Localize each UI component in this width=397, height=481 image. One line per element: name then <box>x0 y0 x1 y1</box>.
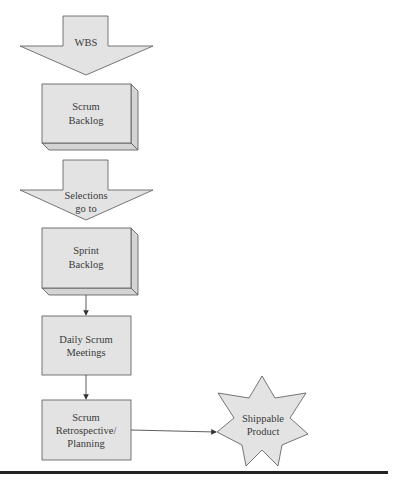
scrum-flow-diagram: WBS Scrum Backlog Selections go to Sprin… <box>0 0 397 481</box>
sprint-backlog-label-2: Backlog <box>69 259 105 270</box>
retrospective-label-2: Retrospective/ <box>56 425 117 436</box>
sprint-backlog-box: Sprint Backlog <box>42 228 138 295</box>
daily-scrum-label-2: Meetings <box>66 347 105 358</box>
retrospective-label-1: Scrum <box>72 412 99 423</box>
selections-label-2: go to <box>75 203 96 214</box>
scrum-backlog-label-2: Backlog <box>69 115 105 126</box>
retrospective-box: Scrum Retrospective/ Planning <box>42 400 131 460</box>
sprint-backlog-label-1: Sprint <box>73 245 99 256</box>
scrum-backlog-label-1: Scrum <box>72 101 99 112</box>
shippable-label-2: Product <box>247 426 280 437</box>
retrospective-label-3: Planning <box>67 438 105 449</box>
wbs-label: WBS <box>75 37 98 48</box>
selections-arrow: Selections go to <box>20 160 153 220</box>
daily-scrum-box: Daily Scrum Meetings <box>42 316 131 375</box>
wbs-arrow: WBS <box>20 16 153 75</box>
daily-scrum-label-1: Daily Scrum <box>59 334 112 345</box>
shippable-product-star: Shippable Product <box>217 376 308 466</box>
scrum-backlog-box: Scrum Backlog <box>42 84 138 150</box>
connector-retrospective-to-product <box>131 430 216 432</box>
bottom-rule <box>0 471 388 474</box>
shippable-label-1: Shippable <box>242 413 284 424</box>
selections-label-1: Selections <box>64 190 107 201</box>
